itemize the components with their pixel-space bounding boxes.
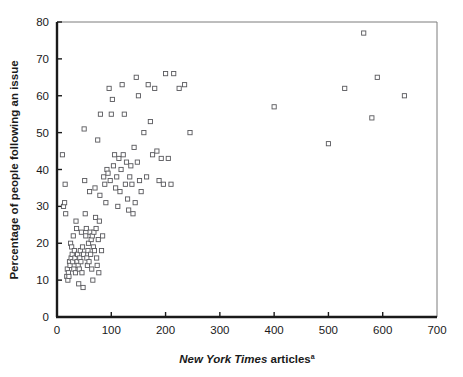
data-point (79, 230, 83, 234)
data-point (67, 274, 71, 278)
data-point (87, 260, 91, 264)
data-point (95, 256, 99, 260)
data-point (74, 219, 78, 223)
data-point (64, 212, 68, 216)
data-point (74, 226, 78, 230)
y-tick-label-70: 70 (36, 53, 49, 65)
data-point (60, 153, 64, 157)
x-axis-title: New York Times articlesa (179, 353, 314, 365)
data-point (326, 142, 330, 146)
scatter-chart-figure: 010203040506070800100200300400500600700 … (0, 0, 463, 377)
data-point (117, 156, 121, 160)
data-point (134, 75, 138, 79)
x-tick-label-300: 300 (210, 324, 229, 336)
y-tick-label-60: 60 (36, 90, 49, 102)
data-point (91, 278, 95, 282)
data-point (97, 219, 101, 223)
y-tick-label-50: 50 (36, 127, 49, 139)
data-point (116, 204, 120, 208)
data-point (79, 260, 83, 264)
plot-frame (56, 22, 437, 317)
x-tick-label-0: 0 (54, 324, 60, 336)
data-point (84, 234, 88, 238)
data-point (118, 190, 122, 194)
data-point (161, 182, 165, 186)
data-point (63, 182, 67, 186)
data-point (99, 249, 103, 253)
data-point (146, 83, 150, 87)
data-point (182, 83, 186, 87)
data-point (90, 267, 94, 271)
data-point (124, 160, 128, 164)
chart-canvas: 010203040506070800100200300400500600700 … (0, 0, 463, 377)
data-point (93, 186, 97, 190)
data-point (136, 94, 140, 98)
data-point (109, 112, 113, 116)
data-point (172, 72, 176, 76)
data-point (375, 75, 379, 79)
data-point (150, 153, 154, 157)
data-point (130, 182, 134, 186)
data-point (123, 182, 127, 186)
data-point (101, 234, 105, 238)
data-point (108, 178, 112, 182)
data-point (83, 212, 87, 216)
y-tick-label-0: 0 (43, 311, 49, 323)
data-point (95, 263, 99, 267)
data-point (63, 201, 67, 205)
data-point (112, 153, 116, 157)
data-point (96, 138, 100, 142)
data-point (155, 149, 159, 153)
data-point (153, 86, 157, 90)
data-point (163, 72, 167, 76)
axis-tick-labels: 010203040506070800100200300400500600700 (36, 16, 446, 336)
data-point (80, 271, 84, 275)
data-point (87, 190, 91, 194)
data-point (102, 175, 106, 179)
data-point (272, 105, 276, 109)
data-point (169, 182, 173, 186)
y-tick-label-10: 10 (36, 274, 49, 286)
data-point (97, 271, 101, 275)
y-axis-title: Percentage of people following an issue (8, 60, 20, 279)
data-point (111, 164, 115, 168)
x-tick-label-400: 400 (265, 324, 284, 336)
data-point (166, 156, 170, 160)
data-point (133, 201, 137, 205)
data-point (177, 86, 181, 90)
data-point (128, 175, 132, 179)
data-point (139, 190, 143, 194)
data-point (98, 193, 102, 197)
data-point (103, 182, 107, 186)
data-point (370, 116, 374, 120)
data-point (107, 86, 111, 90)
data-points (60, 31, 406, 290)
data-point (131, 212, 135, 216)
data-point (83, 178, 87, 182)
data-point (120, 83, 124, 87)
data-point (115, 175, 119, 179)
data-point (114, 186, 118, 190)
x-tick-label-100: 100 (102, 324, 121, 336)
y-tick-label-40: 40 (36, 164, 49, 176)
data-point (122, 112, 126, 116)
y-tick-label-30: 30 (36, 200, 49, 212)
data-point (157, 178, 161, 182)
data-point (135, 160, 139, 164)
y-tick-label-20: 20 (36, 237, 49, 249)
data-point (188, 131, 192, 135)
data-point (127, 208, 131, 212)
data-point (343, 86, 347, 90)
data-point (132, 145, 136, 149)
data-point (137, 178, 141, 182)
data-point (96, 237, 100, 241)
data-point (110, 97, 114, 101)
data-point (125, 197, 129, 201)
data-point (77, 282, 81, 286)
data-point (148, 119, 152, 123)
data-point (81, 285, 85, 289)
data-point (402, 94, 406, 98)
x-tick-label-200: 200 (156, 324, 175, 336)
data-point (71, 234, 75, 238)
x-tick-label-700: 700 (427, 324, 446, 336)
